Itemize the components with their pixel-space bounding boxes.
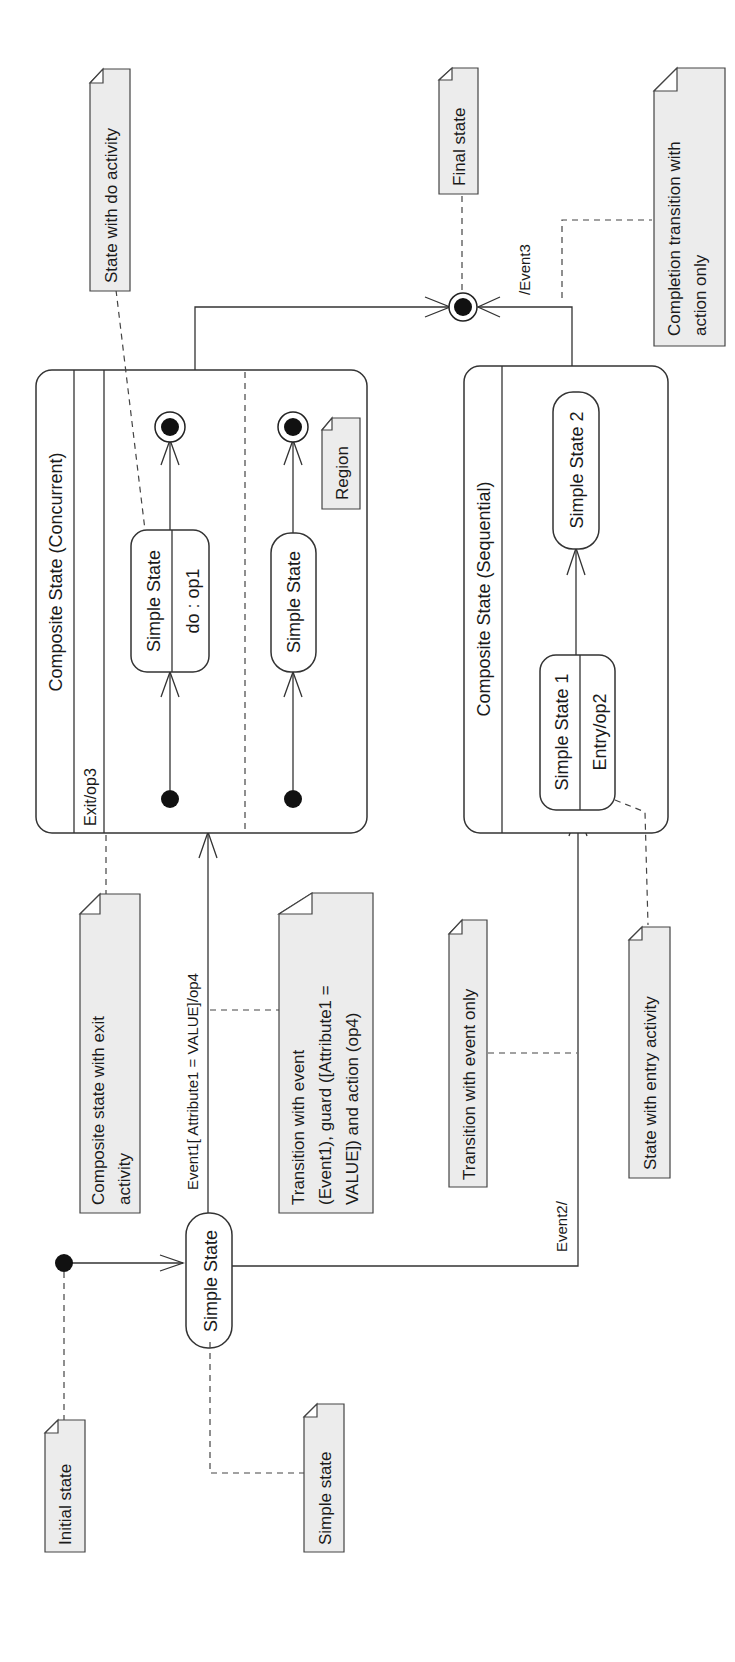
note-completion-line1: Completion transition with [665, 141, 684, 336]
note-transition-full-line2: (Event1), guard ([Attribute1 = [316, 985, 335, 1205]
note-simple-state-text: Simple state [316, 1451, 335, 1545]
state-machine-diagram: Simple State Composite State (Concurrent… [0, 0, 735, 1662]
note-simple-state: Simple state [304, 1404, 344, 1552]
anchor-simple-state [210, 1342, 304, 1473]
final-state-node[interactable] [449, 293, 477, 321]
note-initial-state-text: Initial state [56, 1464, 75, 1545]
composite-sequential-label: Composite State (Sequential) [474, 481, 494, 716]
simple-state-1[interactable]: Simple State 1 Entry/op2 [540, 655, 615, 810]
composite-concurrent-exit-activity: Exit/op3 [82, 768, 99, 826]
composite-state-sequential[interactable]: Composite State (Sequential) Simple Stat… [464, 366, 668, 833]
anchor-completion [562, 220, 652, 298]
note-final-state-text: Final state [450, 108, 469, 186]
note-composite-exit: Composite state with exit activity [80, 894, 140, 1213]
simple-state-main-label: Simple State [201, 1230, 221, 1332]
transition-event2-label: Event2/ [553, 1200, 570, 1252]
region1-state-label: Simple State [144, 550, 164, 652]
simple-state-2-label: Simple State 2 [567, 411, 587, 528]
region1-state-activity: do : op1 [183, 568, 203, 633]
note-region: Region [322, 418, 360, 509]
region2-state-label: Simple State [284, 551, 304, 653]
note-state-do: State with do activity [90, 69, 130, 291]
simple-state-1-entry: Entry/op2 [590, 693, 610, 770]
transition-initial [66, 1255, 183, 1271]
note-transition-full: Transition with event (Event1), guard ([… [279, 893, 373, 1213]
transition-event3-label: /Event3 [516, 244, 533, 295]
transition-to-final-from-concurrent [195, 297, 450, 370]
region2-simple-state[interactable]: Simple State [271, 533, 316, 672]
simple-state-main[interactable]: Simple State [186, 1213, 232, 1348]
state-with-do-activity[interactable]: Simple State do : op1 [131, 530, 209, 672]
note-transition-full-line3: VALUE]) and action (op4) [343, 1013, 362, 1205]
note-composite-exit-line2: activity [115, 1153, 134, 1205]
transition-event1-label: Event1[ Attribute1 = VALUE]/op4 [184, 973, 201, 1190]
note-region-text: Region [333, 446, 352, 500]
note-transition-event-only: Transition with event only [449, 920, 487, 1187]
note-transition-event-only-text: Transition with event only [460, 988, 479, 1180]
note-transition-full-line1: Transition with event [289, 1049, 308, 1205]
composite-state-concurrent[interactable]: Composite State (Concurrent) Exit/op3 Si… [36, 370, 367, 833]
note-state-entry: State with entry activity [629, 927, 670, 1178]
composite-concurrent-label: Composite State (Concurrent) [46, 452, 66, 691]
initial-state-node[interactable] [55, 1254, 73, 1272]
note-composite-exit-line1: Composite state with exit [89, 1016, 108, 1205]
simple-state-1-label: Simple State 1 [552, 673, 572, 790]
note-final-state: Final state [439, 68, 478, 194]
transition-event1 [199, 832, 217, 1214]
region2-final-state[interactable] [278, 412, 308, 442]
simple-state-2[interactable]: Simple State 2 [553, 392, 599, 549]
note-completion-line2: action only [691, 254, 710, 336]
note-initial-state: Initial state [45, 1420, 85, 1552]
note-state-do-text: State with do activity [102, 128, 121, 283]
note-completion: Completion transition with action only [654, 68, 725, 346]
region1-final-state[interactable] [155, 412, 185, 442]
note-state-entry-text: State with entry activity [641, 996, 660, 1170]
